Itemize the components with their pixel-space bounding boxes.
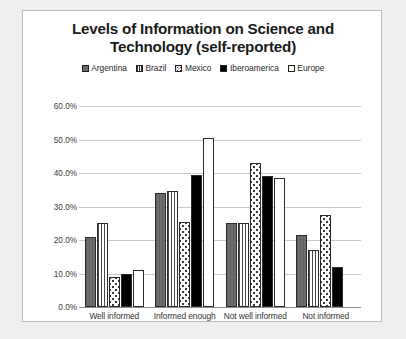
bar-mexico-not-well-informed[interactable] (250, 163, 261, 307)
bar-europe-informed-enough[interactable] (203, 138, 214, 307)
legend-label: Europe (297, 63, 324, 73)
bar-group (220, 106, 291, 307)
x-axis-tick-label: Not informed (291, 311, 362, 321)
legend-item-brazil[interactable]: Brazil (136, 63, 166, 73)
y-axis-tick-label: 50.0% (54, 135, 77, 144)
legend-label: Iberoamerica (230, 63, 279, 73)
chart-legend: ArgentinaBrazilMexicoIberoamericaEurope (33, 63, 373, 73)
bar-brazil-not-informed[interactable] (308, 250, 319, 307)
bar-mexico-not-informed[interactable] (320, 215, 331, 307)
bar-mexico-informed-enough[interactable] (179, 222, 190, 307)
bar-europe-not-well-informed[interactable] (274, 178, 285, 307)
chart-title-line-1: Levels of Information on Science and (41, 20, 365, 38)
legend-swatch-icon (175, 65, 182, 72)
legend-item-europe[interactable]: Europe (288, 63, 325, 73)
y-axis-tick-label: 60.0% (54, 102, 77, 111)
x-axis-tick-label: Not well informed (220, 311, 291, 321)
legend-swatch-icon (288, 65, 295, 72)
bar-iberoamerica-not-informed[interactable] (332, 267, 343, 307)
bar-iberoamerica-well-informed[interactable] (121, 274, 132, 308)
x-axis-tick-label: Well informed (79, 311, 150, 321)
y-axis-tick-label: 10.0% (54, 269, 77, 278)
x-axis-tick-label: Informed enough (150, 311, 221, 321)
y-axis-tick-label: 30.0% (54, 202, 77, 211)
bar-argentina-not-informed[interactable] (296, 235, 307, 307)
bar-brazil-not-well-informed[interactable] (238, 223, 249, 307)
legend-swatch-icon (220, 65, 227, 72)
bar-brazil-informed-enough[interactable] (167, 191, 178, 307)
chart-title-line-2: Technology (self-reported) (41, 38, 365, 56)
legend-label: Mexico (185, 63, 212, 73)
bar-group (150, 106, 221, 307)
bar-iberoamerica-informed-enough[interactable] (191, 175, 202, 307)
legend-swatch-icon (82, 65, 89, 72)
chart-page: Levels of Information on Science and Tec… (0, 0, 406, 339)
chart-title: Levels of Information on Science and Tec… (41, 20, 365, 56)
bar-group (291, 106, 362, 307)
plot-area (79, 106, 361, 307)
legend-label: Brazil (145, 63, 166, 73)
legend-item-argentina[interactable]: Argentina (82, 63, 127, 73)
bar-argentina-informed-enough[interactable] (155, 193, 166, 307)
bar-iberoamerica-not-well-informed[interactable] (262, 176, 273, 307)
bar-brazil-well-informed[interactable] (97, 223, 108, 307)
legend-swatch-icon (136, 65, 143, 72)
bar-groups (79, 106, 361, 307)
x-axis-labels: Well informedInformed enoughNot well inf… (79, 311, 361, 321)
y-axis-tick-label: 20.0% (54, 236, 77, 245)
chart-frame: Levels of Information on Science and Tec… (22, 10, 382, 322)
legend-item-iberoamerica[interactable]: Iberoamerica (220, 63, 278, 73)
gridline (79, 307, 361, 308)
y-axis-tick-label: 0.0% (58, 303, 77, 312)
legend-item-mexico[interactable]: Mexico (175, 63, 211, 73)
legend-label: Argentina (91, 63, 127, 73)
y-axis-labels: 0.0%10.0%20.0%30.0%40.0%50.0%60.0% (35, 106, 77, 307)
bar-europe-well-informed[interactable] (133, 270, 144, 307)
y-axis-tick-label: 40.0% (54, 169, 77, 178)
bar-argentina-not-well-informed[interactable] (226, 223, 237, 307)
bar-mexico-well-informed[interactable] (109, 277, 120, 307)
bar-argentina-well-informed[interactable] (85, 237, 96, 307)
bar-group (79, 106, 150, 307)
